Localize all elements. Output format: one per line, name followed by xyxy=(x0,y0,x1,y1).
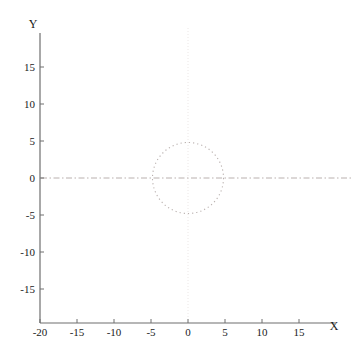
chart-figure: -20-15-10-5051015 -15-10-5051015 X Y xyxy=(0,0,356,362)
x-tick-label: -5 xyxy=(146,326,156,338)
plot-canvas: -20-15-10-5051015 -15-10-5051015 X Y xyxy=(0,0,356,362)
x-tick-label: -15 xyxy=(70,326,85,338)
x-tick-label: 0 xyxy=(185,326,191,338)
x-tick-label: 15 xyxy=(294,326,306,338)
y-tick-label: 0 xyxy=(30,172,36,184)
x-tick-label: -20 xyxy=(33,326,48,338)
y-axis-label: Y xyxy=(29,17,38,31)
y-tick-label: -5 xyxy=(26,209,36,221)
figure-background xyxy=(0,0,356,362)
x-tick-label: -10 xyxy=(107,326,122,338)
x-axis-label: X xyxy=(330,319,339,333)
y-tick-label: 10 xyxy=(24,98,36,110)
y-tick-label: 5 xyxy=(30,135,36,147)
y-tick-label: -15 xyxy=(20,283,35,295)
y-tick-label: -10 xyxy=(20,246,35,258)
x-tick-label: 5 xyxy=(222,326,228,338)
x-tick-label: 10 xyxy=(257,326,269,338)
y-tick-label: 15 xyxy=(24,61,36,73)
